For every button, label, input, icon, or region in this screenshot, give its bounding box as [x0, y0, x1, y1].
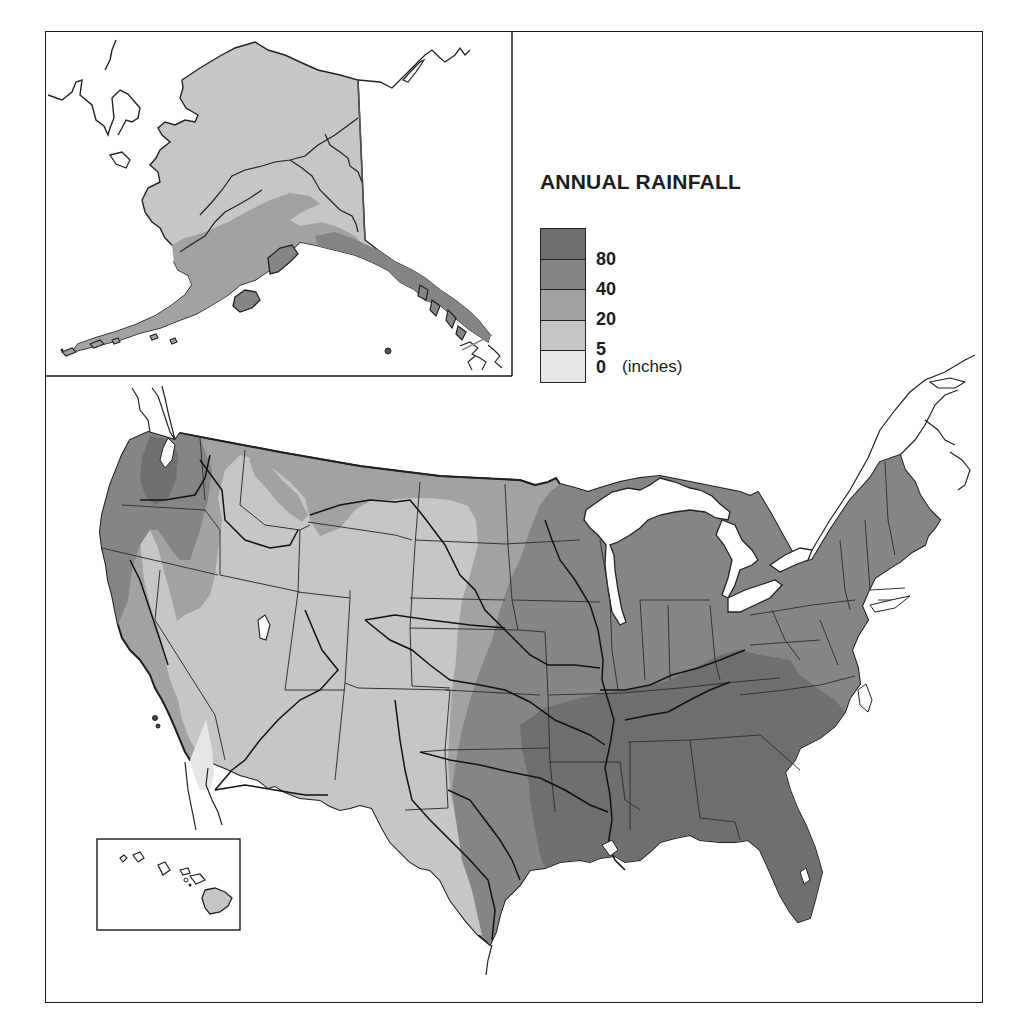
- island-dot: [61, 349, 64, 352]
- arctic-island: [403, 60, 424, 82]
- swatch-0-5: [541, 351, 585, 382]
- hawaii-inset-border: [97, 839, 240, 930]
- channel-island: [153, 716, 158, 721]
- island-dot: [189, 884, 192, 887]
- swatch-40-80: [541, 260, 585, 291]
- legend-swatches: [540, 228, 586, 383]
- legend-title: ANNUAL RAINFALL: [540, 170, 798, 194]
- hawaii-inset: [97, 839, 240, 930]
- island-dot: [385, 348, 391, 354]
- kodiak-island: [233, 290, 260, 312]
- chesapeake-bay: [858, 684, 872, 712]
- rainfall-map: [0, 0, 1011, 1019]
- legend-unit: (inches): [622, 358, 682, 376]
- legend-tick-5: 5: [596, 340, 606, 358]
- anticosti-island: [930, 378, 965, 388]
- channel-island: [156, 724, 160, 728]
- swatch-20-40: [541, 290, 585, 321]
- legend-body: 80 40 20 5 0 (inches): [538, 228, 798, 388]
- legend-tick-80: 80: [596, 250, 616, 268]
- siberia-coastline: [48, 40, 140, 135]
- alaska-inset: [48, 40, 502, 370]
- legend-tick-0: 0: [596, 358, 606, 376]
- legend-tick-40: 40: [596, 280, 616, 298]
- st-lawrence-island: [110, 152, 130, 168]
- alaska-zone-20: [72, 193, 490, 352]
- legend-tick-20: 20: [596, 310, 616, 328]
- legend: ANNUAL RAINFALL 80 40 20 5 0 (inches): [538, 170, 798, 388]
- swatch-5-20: [541, 321, 585, 352]
- long-island: [870, 596, 910, 612]
- swatch-80-plus: [541, 229, 585, 260]
- mexico-coastline: [486, 945, 492, 975]
- bc-coastline: [460, 342, 502, 370]
